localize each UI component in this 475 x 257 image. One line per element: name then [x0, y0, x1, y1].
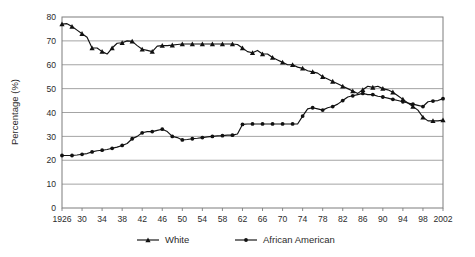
- data-point-marker: [60, 154, 64, 158]
- x-axis-tick-label: 1926: [52, 214, 71, 224]
- y-axis-tick-label: 70: [46, 36, 56, 46]
- y-axis-tick-label: 10: [46, 179, 56, 189]
- x-axis-tick-label: 86: [358, 214, 368, 224]
- data-point-marker: [441, 97, 445, 101]
- data-point-marker: [341, 99, 345, 103]
- data-point-marker: [70, 154, 74, 158]
- x-axis-tick-label: 98: [418, 214, 428, 224]
- x-axis-tick-label: 82: [338, 214, 348, 224]
- data-point-marker: [221, 134, 225, 138]
- data-point-marker: [200, 136, 204, 140]
- x-axis-tick-label: 50: [178, 214, 188, 224]
- legend-item-label: White: [165, 234, 189, 245]
- data-point-marker: [120, 144, 124, 148]
- data-point-marker: [110, 146, 114, 150]
- data-point-marker: [391, 97, 395, 101]
- data-point-marker: [411, 102, 415, 106]
- x-axis-tick-label: 74: [298, 214, 308, 224]
- x-axis-tick-label: 42: [137, 214, 147, 224]
- x-axis-tick-label: 2002: [433, 214, 452, 224]
- data-point-marker: [301, 114, 305, 118]
- data-point-marker: [381, 95, 385, 99]
- data-point-marker: [90, 150, 94, 154]
- y-axis-tick-label: 40: [46, 108, 56, 118]
- x-axis-tick-label: 94: [398, 214, 408, 224]
- x-axis-tick-label: 70: [278, 214, 288, 224]
- y-axis-title: Percentage (%): [9, 79, 20, 145]
- x-axis-tick-label: 58: [218, 214, 228, 224]
- data-point-marker: [361, 92, 365, 96]
- x-axis-tick-label: 38: [117, 214, 127, 224]
- data-point-marker: [150, 130, 154, 134]
- data-point-marker: [331, 105, 335, 109]
- data-point-marker: [210, 134, 214, 138]
- data-point-marker: [160, 127, 164, 131]
- line-chart: 01020304050607080 1926303438424650545862…: [0, 0, 475, 257]
- data-point-marker: [130, 137, 134, 141]
- data-point-marker: [371, 93, 375, 97]
- data-point-marker: [271, 122, 275, 126]
- y-axis-tick-label: 60: [46, 60, 56, 70]
- data-point-marker: [311, 106, 315, 110]
- y-axis-tick-label: 80: [46, 12, 56, 22]
- x-axis-tick-label: 90: [378, 214, 388, 224]
- y-axis-tick-label: 50: [46, 84, 56, 94]
- data-point-marker: [100, 148, 104, 152]
- data-point-marker: [241, 123, 245, 127]
- y-axis-tick-label: 0: [51, 203, 56, 213]
- x-axis-tick-label: 46: [157, 214, 167, 224]
- legend-swatch-marker: [244, 238, 248, 242]
- data-point-marker: [80, 152, 84, 156]
- data-point-marker: [281, 122, 285, 126]
- data-point-marker: [140, 131, 144, 135]
- x-axis-tick-label: 34: [97, 214, 107, 224]
- data-point-marker: [421, 105, 425, 109]
- x-axis-tick-label: 62: [238, 214, 248, 224]
- data-point-marker: [291, 122, 295, 126]
- x-axis-tick-label: 30: [77, 214, 87, 224]
- y-axis-tick-labels: 01020304050607080: [46, 12, 56, 213]
- legend-item-label: African American: [263, 234, 335, 245]
- data-point-marker: [321, 108, 325, 112]
- data-point-marker: [261, 122, 265, 126]
- data-point-marker: [431, 99, 435, 103]
- data-point-marker: [231, 133, 235, 137]
- data-point-marker: [180, 138, 184, 142]
- data-point-marker: [190, 137, 194, 141]
- data-point-marker: [401, 100, 405, 104]
- y-axis-tick-label: 30: [46, 132, 56, 142]
- data-point-marker: [170, 134, 174, 138]
- data-point-marker: [351, 94, 355, 98]
- x-axis-tick-label: 54: [198, 214, 208, 224]
- x-axis-tick-label: 66: [258, 214, 268, 224]
- y-axis-tick-label: 20: [46, 155, 56, 165]
- x-axis-tick-label: 78: [318, 214, 328, 224]
- data-point-marker: [251, 122, 255, 126]
